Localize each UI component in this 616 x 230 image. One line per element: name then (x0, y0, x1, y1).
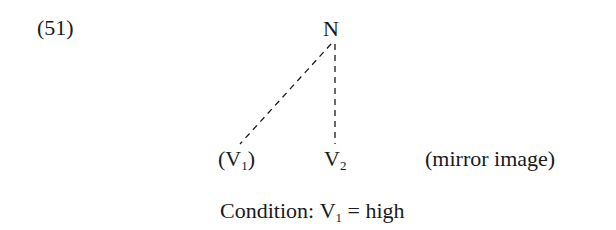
annotation-text: (mirror image) (425, 148, 555, 170)
tree-edges (0, 0, 616, 230)
condition-line: Condition: V1 = high (220, 200, 405, 222)
tree-leaf-v1: (V1) (218, 148, 255, 170)
edge-n-v1 (240, 44, 331, 144)
tree-leaf-v2: V2 (324, 148, 346, 170)
